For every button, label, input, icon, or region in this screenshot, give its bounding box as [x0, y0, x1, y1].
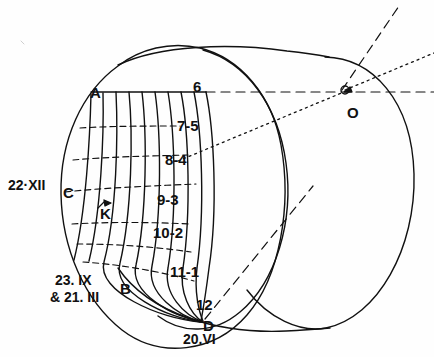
point-label-A: A — [90, 85, 101, 100]
hour-label-6: 6 — [193, 79, 201, 94]
hour-label-11-1: 11-1 — [170, 264, 199, 279]
hour-curve-edge-2 — [89, 93, 103, 261]
stray-speck — [21, 41, 24, 44]
hour-label-10-2: 10-2 — [153, 225, 183, 240]
hour-label-8-4: 8-4 — [165, 152, 187, 167]
date-curve-lower-b — [77, 244, 191, 252]
hour-curve-12 — [201, 92, 214, 321]
date-label-21-III: & 21. III — [50, 290, 99, 304]
upper-dashed-ray — [342, 6, 399, 90]
hour-label-9-3: 9-3 — [157, 192, 179, 207]
cylinder-right-end-ellipse — [247, 57, 414, 329]
date-label-23-IX: 23. IX — [55, 273, 92, 287]
date-curve-upper-a — [80, 126, 180, 128]
point-label-K: K — [100, 206, 111, 221]
sundial-diagram: A C B D K O 6 7-5 8-4 9-3 10-2 11-1 12 2… — [0, 0, 434, 357]
point-label-B: B — [120, 281, 131, 296]
point-label-C: C — [63, 185, 74, 200]
point-label-O: O — [347, 105, 359, 120]
hour-label-12: 12 — [196, 297, 213, 312]
hour-label-7-5: 7-5 — [177, 118, 199, 133]
upper-dotted-ray — [345, 53, 434, 90]
date-label-22-XII: 22·XII — [8, 178, 45, 192]
gnomon-dotted-ray — [178, 92, 344, 161]
date-label-20-VI: 20.VI — [183, 332, 216, 346]
